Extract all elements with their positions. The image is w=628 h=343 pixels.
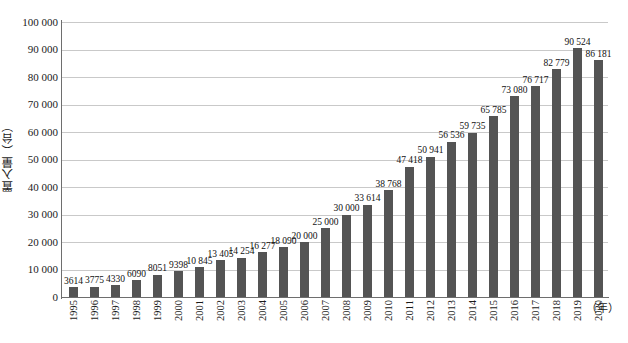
x-axis-tick-label: 2011 bbox=[404, 300, 415, 321]
x-axis-tick-label: 2008 bbox=[341, 300, 352, 321]
bar-value-label: 86 181 bbox=[577, 49, 621, 59]
x-axis-tick-label: 2007 bbox=[320, 300, 331, 321]
bar bbox=[111, 285, 120, 297]
gridline bbox=[62, 215, 608, 216]
bar bbox=[90, 287, 99, 297]
y-axis-tick-label: 40 000 bbox=[2, 182, 58, 193]
gridline bbox=[62, 105, 608, 106]
x-axis-unit-label: （年） bbox=[586, 302, 619, 314]
bar-value-label: 47 418 bbox=[388, 155, 432, 165]
bar bbox=[195, 267, 204, 297]
bar bbox=[69, 287, 78, 297]
y-axis-line bbox=[61, 20, 62, 299]
x-axis-tick-label: 2006 bbox=[299, 300, 310, 321]
x-axis-tick-label: 1996 bbox=[89, 300, 100, 321]
gridline bbox=[62, 160, 608, 161]
y-axis-tick-label: 100 000 bbox=[2, 17, 58, 28]
bar bbox=[153, 275, 162, 297]
y-axis-tick-label: 60 000 bbox=[2, 127, 58, 138]
bar-value-label: 20 000 bbox=[283, 231, 327, 241]
bar bbox=[447, 142, 456, 297]
y-axis-tick-label: 20 000 bbox=[2, 237, 58, 248]
y-axis-tick-label: 30 000 bbox=[2, 209, 58, 220]
gridline bbox=[62, 187, 608, 188]
bar bbox=[510, 96, 519, 297]
bar bbox=[573, 48, 582, 297]
bar-value-label: 33 614 bbox=[346, 193, 390, 203]
bar bbox=[405, 167, 414, 297]
bar-value-label: 25 000 bbox=[304, 217, 348, 227]
x-axis-tick-label: 2014 bbox=[467, 300, 478, 321]
bar bbox=[237, 258, 246, 297]
bar bbox=[258, 252, 267, 297]
y-axis-tick-label: 10 000 bbox=[2, 264, 58, 275]
bar bbox=[132, 280, 141, 297]
bar bbox=[489, 116, 498, 297]
bar-value-label: 65 785 bbox=[472, 105, 516, 115]
x-axis-tick-labels: 1995199619971998199920002001200220032004… bbox=[62, 300, 608, 342]
bar bbox=[531, 86, 540, 297]
bar bbox=[174, 271, 183, 297]
x-axis-tick-label: 2000 bbox=[173, 300, 184, 321]
x-axis-tick-label: 1999 bbox=[152, 300, 163, 321]
x-axis-tick-label: 2018 bbox=[551, 300, 562, 321]
x-axis-tick-label: 2001 bbox=[194, 300, 205, 321]
gridline bbox=[62, 50, 608, 51]
x-axis-tick-label: 2003 bbox=[236, 300, 247, 321]
bar bbox=[216, 260, 225, 297]
bar bbox=[363, 205, 372, 297]
y-axis-tick-labels: 100 00090 00080 00070 00060 00050 00040 … bbox=[0, 22, 58, 297]
bar bbox=[594, 60, 603, 297]
bar bbox=[384, 190, 393, 297]
y-axis-tick-label: 50 000 bbox=[2, 154, 58, 165]
x-axis-tick-label: 2013 bbox=[446, 300, 457, 321]
plot-area: 36143775433060908051939810 84513 40514 2… bbox=[62, 22, 608, 297]
bar-value-label: 59 735 bbox=[451, 121, 495, 131]
bar bbox=[552, 69, 561, 297]
gridline bbox=[62, 132, 608, 133]
bar-chart: 置入量（台） 100 00090 00080 00070 00060 00050… bbox=[0, 0, 628, 343]
x-axis-tick-label: 1997 bbox=[110, 300, 121, 321]
x-axis-tick-label: 2019 bbox=[572, 300, 583, 321]
bar-value-label: 50 941 bbox=[409, 145, 453, 155]
x-axis-tick-label: 2010 bbox=[383, 300, 394, 321]
bar bbox=[279, 247, 288, 297]
bar bbox=[321, 228, 330, 297]
x-axis-tick-label: 1995 bbox=[68, 300, 79, 321]
x-axis-tick-label: 2002 bbox=[215, 300, 226, 321]
bar-value-label: 90 524 bbox=[556, 37, 600, 47]
y-axis-tick-label: 90 000 bbox=[2, 44, 58, 55]
x-axis-tick-label: 2017 bbox=[530, 300, 541, 321]
x-axis-tick-label: 2015 bbox=[488, 300, 499, 321]
x-axis-line bbox=[61, 297, 609, 298]
x-axis-tick-label: 2004 bbox=[257, 300, 268, 321]
bar bbox=[300, 242, 309, 297]
bar bbox=[468, 133, 477, 297]
x-axis-tick-label: 2016 bbox=[509, 300, 520, 321]
x-axis-tick-label: 2012 bbox=[425, 300, 436, 321]
gridline bbox=[62, 242, 608, 243]
y-axis-tick-label: 0 bbox=[2, 292, 58, 303]
x-axis-tick-label: 2009 bbox=[362, 300, 373, 321]
bar-value-label: 56 536 bbox=[430, 130, 474, 140]
x-axis-tick-label: 1998 bbox=[131, 300, 142, 321]
bar-value-label: 73 080 bbox=[493, 85, 537, 95]
y-axis-tick-label: 80 000 bbox=[2, 72, 58, 83]
bar bbox=[342, 215, 351, 298]
bar-value-label: 82 779 bbox=[535, 58, 579, 68]
bar-value-label: 30 000 bbox=[325, 203, 369, 213]
x-axis-tick-label: 2005 bbox=[278, 300, 289, 321]
bar bbox=[426, 157, 435, 297]
bar-value-label: 76 717 bbox=[514, 75, 558, 85]
bar-value-label: 38 768 bbox=[367, 179, 411, 189]
gridline bbox=[62, 22, 608, 23]
y-axis-tick-label: 70 000 bbox=[2, 99, 58, 110]
